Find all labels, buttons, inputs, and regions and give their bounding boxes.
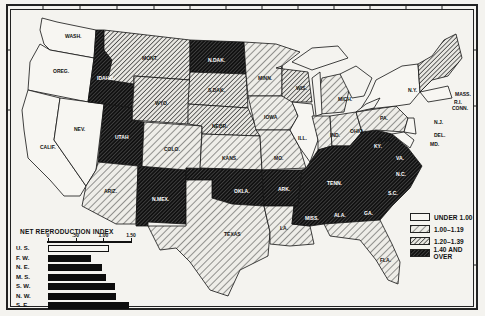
state-label-va: VA. (396, 155, 405, 161)
state-label-ark: ARK. (278, 186, 291, 192)
legend-swatch-dense-hatch (410, 249, 430, 257)
state-label-tenn: TENN. (327, 180, 343, 186)
legend-item-1-00-1-19: 1.00–1.19 (410, 223, 482, 235)
state-label-wash: WASH. (65, 33, 82, 39)
x-tick-label: 0 (47, 232, 50, 238)
x-tick-label: 1.50 (126, 232, 136, 238)
bar-label: S. W. (16, 283, 44, 289)
bar-label: U. S. (16, 245, 44, 251)
x-tick (76, 238, 77, 243)
state-label-minn: MINN. (258, 75, 273, 81)
bar-label: N. W. (16, 293, 44, 299)
bar-ne (48, 264, 102, 271)
map-legend: UNDER 1.00 1.00–1.19 1.20–1.39 1.40 AND … (410, 211, 482, 259)
state-label-nj: N.J. (434, 119, 444, 125)
state-label-sc: S.C. (388, 190, 398, 196)
state-label-fla: FLA. (380, 257, 392, 263)
state-label-calif: CALIF. (40, 144, 56, 150)
state-label-md: MD. (430, 141, 440, 147)
state-label-idaho: IDAHO (97, 75, 113, 81)
state-label-ndak: N.DAK. (208, 57, 226, 63)
bar-se (48, 302, 129, 309)
legend-item-under-1: UNDER 1.00 (410, 211, 482, 223)
state-label-ala: ALA. (334, 212, 346, 218)
state-label-la: LA. (280, 225, 289, 231)
state-label-ind: IND. (330, 132, 341, 138)
state-label-ohio: OHIO (350, 128, 363, 134)
state-label-utah: UTAH (115, 134, 129, 140)
state-label-nev: NEV. (74, 126, 86, 132)
bar-label: N. E. (16, 264, 44, 270)
bar-ms (48, 274, 106, 281)
state-label-okla: OKLA. (234, 188, 250, 194)
state-label-oreg: OREG. (53, 68, 70, 74)
state-label-iowa: IOWA (264, 114, 278, 120)
legend-swatch-medium-hatch (410, 237, 430, 245)
bar-label: F. W. (16, 255, 44, 261)
x-tick (131, 238, 132, 243)
state-label-nebr: NEBR. (212, 123, 228, 129)
legend-swatch-light-hatch (410, 225, 430, 233)
state-label-texas: TEXAS (224, 231, 241, 237)
x-tick-label: .50 (72, 232, 79, 238)
bar-label: M. S. (16, 274, 44, 280)
chart-x-axis (47, 241, 131, 243)
state-label-ariz: ARIZ. (104, 188, 118, 194)
state-label-nmex: N.MEX. (152, 196, 170, 202)
state-label-wyo: WYO. (155, 100, 169, 106)
state-label-ny: N.Y. (408, 87, 418, 93)
state-label-wva: W.VA. (378, 137, 392, 143)
x-tick (103, 238, 104, 243)
state-label-del: DEL. (434, 132, 446, 138)
net-reproduction-index-chart: NET REPRODUCTION INDEX 0.501.001.50 U. S… (14, 228, 144, 310)
state-label-kans: KANS. (222, 155, 238, 161)
state-label-wis: WIS. (296, 85, 307, 91)
state-label-mich: MICH. (338, 96, 353, 102)
bar-sw (48, 283, 115, 290)
x-tick-label: 1.00 (98, 232, 108, 238)
state-label-ill: ILL. (298, 135, 307, 141)
state-label-ga: GA. (364, 210, 374, 216)
legend-swatch-none (410, 213, 430, 221)
legend-item-1-40-and-over: 1.40 AND OVER (410, 247, 482, 259)
state-label-ri: R.I. (454, 99, 462, 105)
bar-nw (48, 293, 116, 300)
state-label-colo: COLO. (164, 146, 180, 152)
state-label-ky: KY. (374, 143, 382, 149)
state-label-sdak: S.DAK. (208, 87, 226, 93)
bar-us (48, 245, 109, 252)
x-tick (48, 238, 49, 243)
state-label-pa: PA. (380, 115, 389, 121)
bar-label: S. E. (16, 302, 44, 308)
state-label-mont: MONT. (142, 55, 158, 61)
state-label-conn: CONN. (452, 105, 469, 111)
state-label-miss: MISS. (305, 215, 319, 221)
state-label-nc: N.C. (396, 171, 407, 177)
state-label-mo: MO. (274, 155, 284, 161)
state-label-mass: MASS. (455, 91, 471, 97)
bar-fw (48, 255, 91, 262)
